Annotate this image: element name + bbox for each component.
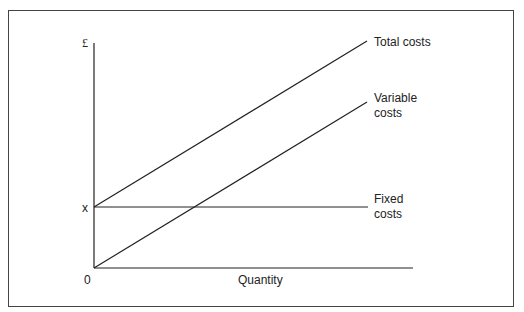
variable-costs-label-2: costs	[374, 106, 402, 120]
y-axis-label: £	[82, 36, 88, 50]
fixed-costs-label-1: Fixed	[374, 192, 403, 206]
fixed-level-label: x	[82, 201, 88, 215]
total-costs-line	[94, 41, 367, 207]
variable-costs-line	[94, 102, 367, 268]
origin-label: 0	[84, 273, 91, 287]
cost-chart: £ x 0 Quantity Total costs Variable cost…	[0, 0, 524, 312]
variable-costs-label-1: Variable	[374, 91, 417, 105]
total-costs-label: Total costs	[374, 35, 431, 49]
chart-border	[9, 11, 514, 307]
fixed-costs-label-2: costs	[374, 207, 402, 221]
x-axis-label: Quantity	[238, 273, 283, 287]
